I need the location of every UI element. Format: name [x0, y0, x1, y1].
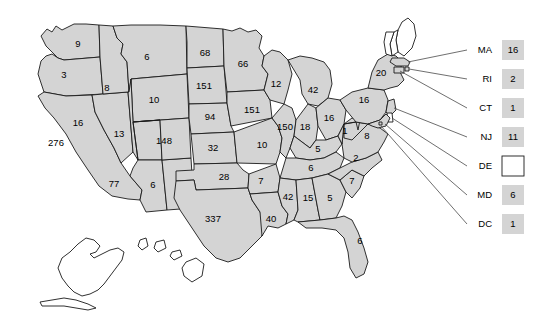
legend-label-ma: MA [478, 44, 493, 55]
value-mi: 42 [308, 84, 319, 95]
legend-label-ri: RI [483, 73, 493, 84]
legend-label-ct: CT [479, 102, 492, 113]
leader-line-ma [408, 50, 467, 62]
value-la: 40 [266, 213, 277, 224]
leader-line-md [385, 124, 467, 195]
value-tx: 337 [205, 213, 221, 224]
legend-label-de: DE [479, 160, 492, 171]
value-ut: 13 [114, 128, 125, 139]
value-co: 148 [156, 135, 172, 146]
value-wa: 9 [75, 38, 80, 49]
value-ar: 7 [258, 175, 263, 186]
legend-label-dc: DC [478, 218, 492, 229]
value-ca: 276 [48, 137, 64, 148]
state-wy[interactable] [131, 74, 189, 122]
state-or[interactable] [38, 54, 103, 96]
state-mi[interactable] [288, 56, 332, 106]
state-ak-aleutians[interactable] [40, 298, 96, 310]
value-ne: 94 [205, 111, 216, 122]
legend-value-ri: 2 [510, 73, 515, 84]
value-sd: 151 [196, 80, 212, 91]
value-mo: 10 [257, 139, 268, 150]
state-ak[interactable] [58, 238, 124, 296]
value-ny: 20 [376, 67, 387, 78]
legend-group: MA 16 RI 2 CT 1 NJ 11 DE MD 6 DC 1 [477, 40, 524, 234]
value-ia: 151 [244, 104, 260, 115]
leader-line-ri [409, 69, 467, 79]
state-dc[interactable] [379, 122, 382, 125]
value-al: 15 [303, 192, 314, 203]
value-fl: 6 [357, 235, 362, 246]
value-or: 3 [61, 69, 66, 80]
value-az: 77 [109, 178, 120, 189]
leader-line-dc [381, 126, 467, 224]
leader-line-nj [394, 108, 467, 137]
value-nm: 6 [150, 179, 155, 190]
value-sc: 7 [349, 175, 354, 186]
legend-value-md: 6 [510, 189, 515, 200]
value-mn: 66 [238, 58, 249, 69]
state-ar[interactable] [248, 164, 280, 194]
value-tn: 6 [308, 162, 313, 173]
value-oh: 16 [324, 112, 335, 123]
value-mt: 6 [144, 51, 149, 62]
value-ga: 5 [327, 192, 332, 203]
value-ks: 32 [208, 142, 219, 153]
value-in: 18 [300, 121, 311, 132]
legend-value-ma: 16 [508, 44, 519, 55]
legend-swatch-de [502, 156, 524, 176]
value-va: 8 [364, 130, 369, 141]
value-il: 150 [277, 121, 293, 132]
value-nd: 68 [200, 47, 211, 58]
state-shapes-group [38, 18, 416, 310]
value-ky: 5 [315, 143, 320, 154]
value-nv: 16 [73, 117, 84, 128]
state-hi-3[interactable] [170, 250, 182, 260]
map-svg: 9 3 276 16 8 6 10 13 77 6 148 68 151 94 … [0, 0, 542, 328]
value-wy: 10 [149, 94, 160, 105]
value-ok: 28 [219, 171, 230, 182]
value-ms: 42 [283, 191, 294, 202]
state-hi-2[interactable] [154, 240, 166, 252]
state-hi-4[interactable] [182, 258, 204, 282]
legend-value-nj: 11 [508, 131, 518, 142]
value-wi: 12 [271, 78, 282, 89]
legend-value-ct: 1 [510, 102, 515, 113]
leader-line-ct [400, 71, 467, 108]
us-choropleth-map: 9 3 276 16 8 6 10 13 77 6 148 68 151 94 … [0, 0, 542, 328]
legend-value-dc: 1 [510, 218, 515, 229]
value-wv: 1 [342, 125, 347, 136]
legend-label-nj: NJ [480, 131, 492, 142]
leader-line-de [392, 118, 467, 166]
state-me[interactable] [396, 18, 416, 56]
state-fl[interactable] [298, 216, 368, 278]
value-pa: 16 [359, 94, 370, 105]
legend-label-md: MD [477, 189, 492, 200]
state-hi-1[interactable] [138, 238, 148, 250]
state-ri[interactable] [405, 67, 409, 71]
value-nc: 2 [353, 152, 358, 163]
value-id: 8 [104, 82, 109, 93]
